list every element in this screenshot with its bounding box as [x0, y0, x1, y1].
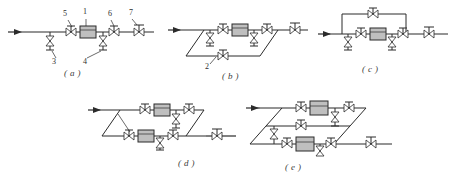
- figure-d: [84, 96, 244, 154]
- gate-valve-icon: [344, 102, 354, 112]
- outlet-valve-icon: [134, 25, 144, 36]
- meter-icon: [138, 130, 154, 142]
- drain-valve-icon: [250, 30, 258, 46]
- gate-valve-icon: [356, 28, 366, 38]
- gate-valve-icon: [109, 26, 119, 36]
- callout-b-2: 2: [205, 62, 209, 71]
- drain-valve-icon: [344, 34, 352, 50]
- caption-c: ( c ): [362, 64, 379, 74]
- meter-icon: [296, 137, 314, 151]
- figure-c: [316, 4, 458, 66]
- gate-valve-icon: [184, 104, 194, 114]
- caption-a: ( a ): [64, 68, 81, 78]
- callout-a-3: 3: [52, 57, 56, 66]
- gate-valve-icon: [326, 138, 336, 148]
- outlet-valve-icon: [366, 137, 376, 148]
- drain-valve-icon: [206, 30, 214, 46]
- gate-valve-icon: [66, 26, 76, 36]
- callout-a-6: 6: [108, 9, 112, 18]
- meter-icon: [154, 104, 170, 116]
- outlet-valve-icon: [212, 129, 222, 140]
- caption-b: ( b ): [222, 71, 239, 81]
- outlet-valve-icon: [290, 23, 300, 34]
- gate-valve-icon: [282, 138, 292, 148]
- gate-valve-icon: [140, 104, 150, 114]
- callout-a-1: 1: [83, 7, 87, 16]
- gate-valve-icon: [368, 8, 378, 18]
- drain-valve-icon: [46, 32, 54, 50]
- drain-valve-icon: [270, 126, 278, 144]
- gate-valve-icon: [218, 24, 228, 34]
- drain-valve-icon: [172, 110, 180, 128]
- figure-sheet: 5 1 6 7 3 4 ( a ): [0, 0, 460, 184]
- flow-arrow-icon: [318, 31, 331, 37]
- gate-valve-icon: [218, 50, 228, 60]
- flow-arrow-icon: [8, 29, 22, 35]
- caption-d: ( d ): [178, 158, 195, 168]
- flow-arrow-icon: [88, 107, 101, 113]
- callout-a-4: 4: [83, 57, 87, 66]
- callout-a-7: 7: [129, 8, 133, 17]
- gate-valve-icon: [124, 130, 134, 140]
- gate-valve-icon: [296, 120, 306, 130]
- meter-icon: [80, 26, 96, 38]
- drain-valve-icon: [316, 144, 324, 156]
- drain-valve-icon: [388, 34, 396, 50]
- flow-arrow-icon: [246, 105, 260, 111]
- outlet-valve-icon: [424, 27, 434, 38]
- gate-valve-icon: [296, 102, 306, 112]
- drain-valve-icon: [156, 136, 164, 150]
- meter-icon: [370, 28, 386, 40]
- meter-icon: [310, 101, 328, 115]
- callout-a-5: 5: [63, 9, 67, 18]
- flow-arrow-icon: [168, 27, 181, 33]
- gate-valve-icon: [262, 24, 272, 34]
- gate-valve-icon: [168, 130, 178, 140]
- drain-valve-icon: [99, 32, 107, 50]
- figure-b: [166, 4, 316, 66]
- figure-e: [240, 96, 410, 156]
- meter-icon: [232, 24, 248, 36]
- drain-valve-icon: [331, 108, 339, 126]
- caption-e: ( e ): [285, 162, 302, 172]
